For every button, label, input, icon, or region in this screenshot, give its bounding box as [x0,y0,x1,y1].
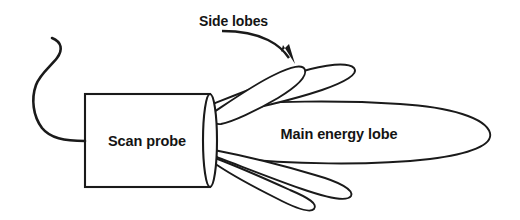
diagram-canvas: Side lobes Scan probe Main energy lobe [0,0,520,220]
main-energy-lobe-label: Main energy lobe [281,126,398,142]
side-lobes-arrow-head [281,44,295,64]
probe-cable [33,38,85,141]
probe-emitting-face [203,94,217,187]
side-lobes-label: Side lobes [199,13,268,29]
scan-probe-label: Scan probe [108,133,186,149]
side-lobes-arrow-curve [222,31,289,58]
scan-probe-beam-diagram: Side lobes Scan probe Main energy lobe [0,0,520,220]
